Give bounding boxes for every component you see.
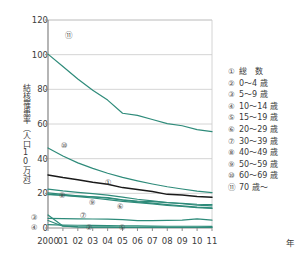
x-tick-label: 2000 <box>37 236 59 246</box>
legend-item-label: 30～39 歳 <box>239 136 278 148</box>
legend-item-label: 50～59 歳 <box>239 159 278 171</box>
tuberculosis-incidence-line-chart: 結核罹患率（人口10万対） 020406080100120 ⑪⑩①⑧⑨⑥⑦③④②… <box>0 0 307 266</box>
legend-marker-icon: ⑨ <box>228 159 239 171</box>
series-line-1 <box>48 175 212 197</box>
legend-item-2: ②0～4 歳 <box>228 78 307 90</box>
legend-marker-icon: ② <box>228 78 239 90</box>
series-callout-①: ① <box>105 179 112 187</box>
legend-item-label: 0～4 歳 <box>239 78 268 90</box>
legend-item-9: ⑨50～59 歳 <box>228 159 307 171</box>
legend-item-1: ①総 数 <box>228 66 307 78</box>
x-axis-unit-label: 年 <box>286 236 295 248</box>
legend-item-3: ③5～9 歳 <box>228 89 307 101</box>
series-callout-⑨: ⑨ <box>89 199 96 207</box>
x-tick-label: 04 <box>102 236 113 246</box>
x-tick-label: 05 <box>117 236 128 246</box>
x-tick-label: 02 <box>72 236 83 246</box>
legend-marker-icon: ⑦ <box>228 136 239 148</box>
legend-item-label: 10～14 歳 <box>239 101 278 113</box>
x-tick-label: 11 <box>207 236 218 246</box>
legend-item-11: ⑪70 歳～ <box>228 182 307 194</box>
legend-item-label: 60～69 歳 <box>239 170 278 182</box>
series-line-5 <box>48 218 212 220</box>
series-callout-③: ③ <box>31 214 38 222</box>
series-line-10 <box>48 148 212 193</box>
x-axis-tick-labels: 年 20000102030405060708091011 <box>0 236 307 252</box>
x-tick-label: 07 <box>147 236 158 246</box>
series-callout-⑦: ⑦ <box>80 212 87 220</box>
x-tick-label: 10 <box>192 236 203 246</box>
legend-marker-icon: ⑩ <box>228 170 239 182</box>
series-callout-⑩: ⑩ <box>61 142 68 150</box>
x-tick-label: 01 <box>57 236 68 246</box>
x-tick-label: 03 <box>87 236 98 246</box>
x-tick-label: 06 <box>132 236 143 246</box>
x-tick-label: 09 <box>177 236 188 246</box>
series-callout-⑧: ⑧ <box>59 192 66 200</box>
legend-item-label: 15～19 歳 <box>239 112 278 124</box>
legend-marker-icon: ⑤ <box>228 112 239 124</box>
legend-marker-icon: ⑪ <box>228 182 239 194</box>
series-callout-④: ④ <box>31 224 38 232</box>
series-line-11 <box>48 54 212 131</box>
legend-marker-icon: ⑥ <box>228 124 239 136</box>
legend-item-8: ⑧40～49 歳 <box>228 147 307 159</box>
legend-item-5: ⑤15～19 歳 <box>228 112 307 124</box>
legend-item-label: 総 数 <box>239 66 263 78</box>
legend-item-6: ⑥20～29 歳 <box>228 124 307 136</box>
legend-item-7: ⑦30～39 歳 <box>228 136 307 148</box>
series-callout-②: ② <box>86 224 93 232</box>
legend-item-label: 70 歳～ <box>239 182 268 194</box>
legend-item-label: 40～49 歳 <box>239 147 278 159</box>
legend-marker-icon: ④ <box>228 101 239 113</box>
legend-marker-icon: ⑧ <box>228 147 239 159</box>
series-callout-⑤: ⑤ <box>119 224 126 232</box>
series-callout-⑥: ⑥ <box>117 203 124 211</box>
legend-item-label: 20～29 歳 <box>239 124 278 136</box>
legend-item-label: 5～9 歳 <box>239 89 268 101</box>
legend-item-4: ④10～14 歳 <box>228 101 307 113</box>
legend-item-10: ⑩60～69 歳 <box>228 170 307 182</box>
series-callout-⑪: ⑪ <box>65 32 72 40</box>
legend-marker-icon: ③ <box>228 89 239 101</box>
legend-marker-icon: ① <box>228 66 239 78</box>
legend: ①総 数②0～4 歳③5～9 歳④10～14 歳⑤15～19 歳⑥20～29 歳… <box>228 66 307 194</box>
x-tick-label: 08 <box>162 236 173 246</box>
